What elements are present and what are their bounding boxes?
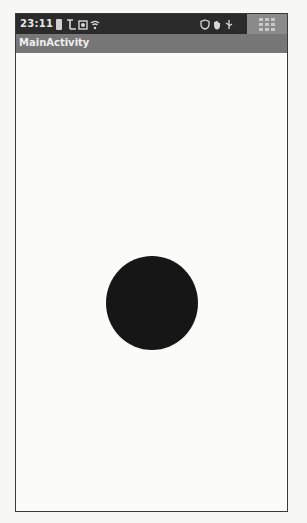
usb-icon [224, 18, 234, 30]
device-screen: 23:11 MainActivity [15, 13, 288, 512]
battery-icon [56, 19, 62, 30]
wifi-icon [90, 18, 100, 30]
shield-icon [200, 18, 210, 30]
circle-shape[interactable] [106, 256, 198, 350]
status-time: 23:11 [20, 18, 53, 29]
signal-icon [66, 18, 76, 30]
status-bar: 23:11 [16, 14, 287, 34]
hand-icon [212, 18, 222, 30]
app-title: MainActivity [19, 37, 89, 48]
title-bar: MainActivity [16, 34, 287, 53]
main-content[interactable] [16, 53, 287, 511]
photo-icon [78, 18, 88, 30]
grid-icon[interactable] [247, 14, 287, 34]
